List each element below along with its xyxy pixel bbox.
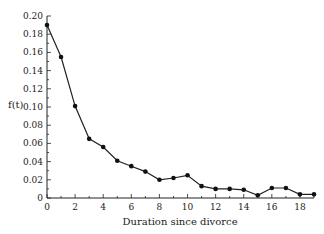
x-tick-label: 2 <box>72 202 78 212</box>
data-point <box>312 192 317 197</box>
data-point <box>129 164 134 169</box>
data-point <box>171 176 176 181</box>
y-tick-label: 0.20 <box>23 11 43 21</box>
data-point <box>255 193 260 198</box>
x-axis-label: Duration since divorce <box>122 216 237 227</box>
data-point <box>185 173 190 178</box>
data-point <box>87 137 92 142</box>
data-point <box>101 145 106 150</box>
data-point <box>45 23 50 28</box>
series-points <box>45 23 317 198</box>
x-tick-label: 16 <box>266 202 278 212</box>
axes <box>47 16 314 198</box>
y-tick-label: 0 <box>37 193 43 203</box>
x-tick-label: 8 <box>157 202 163 212</box>
data-point <box>59 55 64 60</box>
x-tick-label: 6 <box>128 202 134 212</box>
x-tick-label: 10 <box>182 202 194 212</box>
x-tick-label: 12 <box>210 202 221 212</box>
data-point <box>284 186 289 191</box>
data-point <box>143 169 148 174</box>
y-tick-label: 0.06 <box>23 138 43 148</box>
chart: 00.020.040.060.080.100.120.140.160.180.2… <box>0 0 324 234</box>
data-point <box>298 192 303 197</box>
data-point <box>199 184 204 189</box>
x-ticks: 024681012141618 <box>44 194 314 212</box>
y-tick-label: 0.10 <box>23 102 43 112</box>
data-point <box>157 178 162 183</box>
y-tick-label: 0.12 <box>23 84 43 94</box>
data-point <box>241 188 246 193</box>
y-axis-label: f(t) <box>8 99 24 110</box>
y-tick-label: 0.16 <box>23 47 43 57</box>
y-tick-label: 0.04 <box>23 157 43 167</box>
data-point <box>227 187 232 192</box>
data-point <box>270 186 275 191</box>
series-line <box>47 25 314 195</box>
x-tick-label: 4 <box>100 202 106 212</box>
data-point <box>213 187 218 192</box>
x-tick-label: 0 <box>44 202 50 212</box>
data-point <box>73 104 78 109</box>
data-point <box>115 158 120 163</box>
y-tick-label: 0.18 <box>23 29 43 39</box>
y-tick-label: 0.02 <box>23 175 43 185</box>
y-tick-label: 0.14 <box>23 66 43 76</box>
x-tick-label: 18 <box>294 202 306 212</box>
y-tick-label: 0.08 <box>23 120 43 130</box>
x-tick-label: 14 <box>238 202 250 212</box>
